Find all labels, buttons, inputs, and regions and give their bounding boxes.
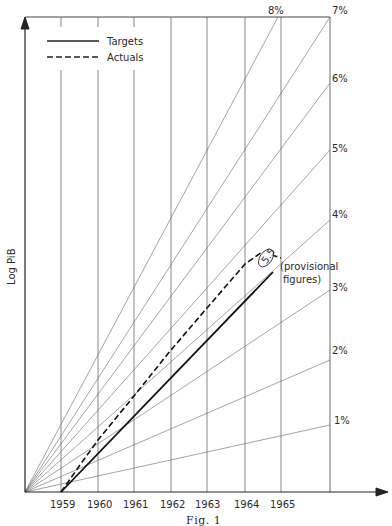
provisional-note-line1: (provisional xyxy=(280,261,338,272)
year-label-1965: 1965 xyxy=(270,499,295,510)
growth-rate-lines xyxy=(25,17,330,492)
legend-targets-label: Targets xyxy=(106,36,143,47)
rate-label-1: 1% xyxy=(334,415,350,426)
annotations: 5.5 (provisional figures) xyxy=(255,246,338,285)
figure-caption: Fig. 1 xyxy=(186,514,221,526)
axes xyxy=(21,17,388,496)
year-label-1960: 1960 xyxy=(87,499,112,510)
year-label-1964: 1964 xyxy=(234,499,259,510)
rate-label-8: 8% xyxy=(268,5,284,16)
rate-label-6: 6% xyxy=(332,73,348,84)
rate-label-2: 2% xyxy=(332,345,348,356)
rate-label-3: 3% xyxy=(332,282,348,293)
rate-label-4: 4% xyxy=(332,209,348,220)
year-label-1959: 1959 xyxy=(50,499,75,510)
vertical-gridlines xyxy=(61,17,281,492)
y-axis-label: Log PiB xyxy=(6,248,17,285)
rate-label-7: 7% xyxy=(332,5,348,16)
year-label-1961: 1961 xyxy=(123,499,148,510)
year-label-1962: 1962 xyxy=(160,499,185,510)
rate-labels: 8% 7% 6% 5% 4% 3% 2% 1% xyxy=(268,5,350,426)
legend: Targets Actuals xyxy=(47,36,144,63)
provisional-note-line2: figures) xyxy=(283,274,321,285)
year-label-1963: 1963 xyxy=(195,499,220,510)
growth-chart: Targets Actuals Log PiB 8% 7% 6% 5% 4% 3… xyxy=(0,0,392,526)
legend-actuals-label: Actuals xyxy=(107,52,144,63)
targets-line xyxy=(61,272,273,492)
rate-label-5: 5% xyxy=(332,143,348,154)
x-tick-labels: 1959 1960 1961 1962 1963 1964 1965 xyxy=(50,499,295,510)
